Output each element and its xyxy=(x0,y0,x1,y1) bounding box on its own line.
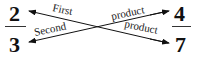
label-first: First xyxy=(52,1,74,17)
arrowhead-to-4 xyxy=(150,11,169,15)
label-product-bottom: product xyxy=(124,17,159,36)
cross-arrows: First Second product product xyxy=(0,0,198,57)
arrowhead-to-7 xyxy=(150,39,169,43)
label-second: Second xyxy=(33,19,68,38)
